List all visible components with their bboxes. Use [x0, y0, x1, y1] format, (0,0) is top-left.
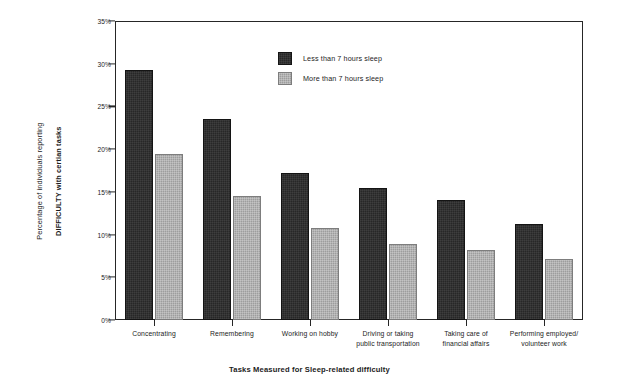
- x-axis-category-label: Performing employed/ volunteer work: [496, 329, 592, 348]
- bar-less-than-7-hours: [203, 119, 231, 320]
- y-axis-title-line1: Percentage of individuals reporting: [34, 123, 43, 240]
- legend-label: More than 7 hours sleep: [303, 74, 383, 83]
- bar-less-than-7-hours: [359, 188, 387, 320]
- y-axis-tick-label: 20%: [71, 146, 111, 153]
- bar-group: [203, 21, 261, 320]
- x-axis-title: Tasks Measured for Sleep-related difficu…: [0, 365, 619, 374]
- bar-group: [125, 21, 183, 320]
- y-axis-title-line2: DIFFICULTY with certian tasks: [54, 126, 63, 235]
- legend-swatch-more-than-7-hours: [278, 72, 292, 85]
- y-axis-tick-label: 15%: [71, 188, 111, 195]
- x-axis-tick-mark: [232, 320, 233, 326]
- y-axis-tick-label: 25%: [71, 103, 111, 110]
- y-axis-tick-label: 0%: [71, 317, 111, 324]
- chart-legend: Less than 7 hours sleepMore than 7 hours…: [278, 48, 488, 88]
- bar-less-than-7-hours: [281, 173, 309, 320]
- legend-label: Less than 7 hours sleep: [303, 54, 382, 63]
- bar-more-than-7-hours: [233, 196, 261, 320]
- bar-more-than-7-hours: [467, 250, 495, 320]
- y-axis-tick-label: 5%: [71, 274, 111, 281]
- bar-less-than-7-hours: [125, 70, 153, 320]
- bar-more-than-7-hours: [545, 259, 573, 321]
- legend-item: More than 7 hours sleep: [278, 68, 488, 88]
- x-axis-tick-mark: [310, 320, 311, 326]
- y-axis-title: Percentage of individuals reporting DIFF…: [25, 61, 63, 301]
- x-axis-tick-mark: [388, 320, 389, 326]
- bar-less-than-7-hours: [437, 200, 465, 320]
- bar-more-than-7-hours: [389, 244, 417, 320]
- y-axis-tick-label: 10%: [71, 231, 111, 238]
- bar-chart-figure: Percentage of individuals reporting DIFF…: [0, 0, 619, 384]
- y-axis-tick-label: 30%: [71, 60, 111, 67]
- bar-group: [515, 21, 573, 320]
- x-axis-tick-mark: [466, 320, 467, 326]
- legend-swatch-less-than-7-hours: [278, 52, 292, 65]
- bar-more-than-7-hours: [155, 154, 183, 320]
- y-axis-tick-label: 35%: [71, 18, 111, 25]
- x-axis-tick-mark: [154, 320, 155, 326]
- bar-less-than-7-hours: [515, 224, 543, 320]
- legend-item: Less than 7 hours sleep: [278, 48, 488, 68]
- x-axis-tick-mark: [544, 320, 545, 326]
- bar-more-than-7-hours: [311, 228, 339, 320]
